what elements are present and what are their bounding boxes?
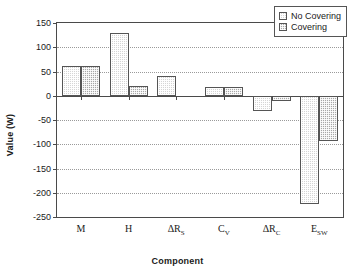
y-tick-label: -200 [33,188,57,198]
x-tick-label: M [57,223,105,234]
bar-chart: Value (W) 150100500-50-100-150-200-250 M… [0,0,355,269]
bar-slot [157,23,176,217]
x-axis-title: Component [0,256,355,266]
legend-item: Covering [279,22,341,32]
y-tick-label: 0 [46,91,57,101]
bar[interactable] [81,66,100,96]
x-tick-label: ΔRS [152,223,200,237]
x-tick-mark [272,96,273,100]
y-tick-label: 100 [36,42,57,52]
bar[interactable] [272,96,291,101]
legend-label: Covering [291,22,327,32]
bar[interactable] [319,96,338,141]
x-tick-label: ΔRC [248,223,296,237]
bar[interactable] [129,86,148,96]
bar-group: CV [200,23,248,217]
x-tick-label: CV [200,223,248,237]
bar-slot [319,23,338,217]
legend: No Covering Covering [274,6,347,37]
bar[interactable] [110,33,129,96]
x-tick-mark [319,96,320,100]
bar[interactable] [253,96,272,112]
bar-slot [176,23,195,217]
bar[interactable] [157,76,176,95]
bar-group: M [57,23,105,217]
x-tick-label: H [105,223,153,234]
x-tick-label: ESW [295,223,343,237]
legend-swatch-icon [279,23,287,31]
bar[interactable] [205,87,224,96]
bar-slot [110,23,129,217]
bar-slot [62,23,81,217]
bar-slot [81,23,100,217]
bar-group: ΔRS [152,23,200,217]
x-tick-mark [81,96,82,100]
plot-area: 150100500-50-100-150-200-250 MHΔRSCVΔRCE… [56,22,344,218]
y-tick-label: 150 [36,18,57,28]
y-axis-title: Value (W) [2,0,18,269]
bar[interactable] [224,87,243,96]
bar-slot [129,23,148,217]
bar[interactable] [300,96,319,205]
bar-groups: MHΔRSCVΔRCESW [57,23,343,217]
y-tick-label: -250 [33,212,57,222]
bar-group: ΔRC [248,23,296,217]
y-tick-label: -100 [33,139,57,149]
legend-item: No Covering [279,11,341,21]
legend-label: No Covering [291,11,341,21]
bar-slot [205,23,224,217]
bar-slot [300,23,319,217]
bar-slot [224,23,243,217]
bar-group: H [105,23,153,217]
bar-slot [253,23,272,217]
x-tick-mark [129,96,130,100]
y-tick-label: -50 [38,115,57,125]
bar-group: ESW [295,23,343,217]
y-tick-label: -150 [33,164,57,174]
bar[interactable] [62,66,81,96]
x-tick-mark [224,96,225,100]
x-tick-mark [176,96,177,100]
y-tick-label: 50 [41,67,57,77]
bar-slot [272,23,291,217]
legend-swatch-icon [279,12,287,20]
